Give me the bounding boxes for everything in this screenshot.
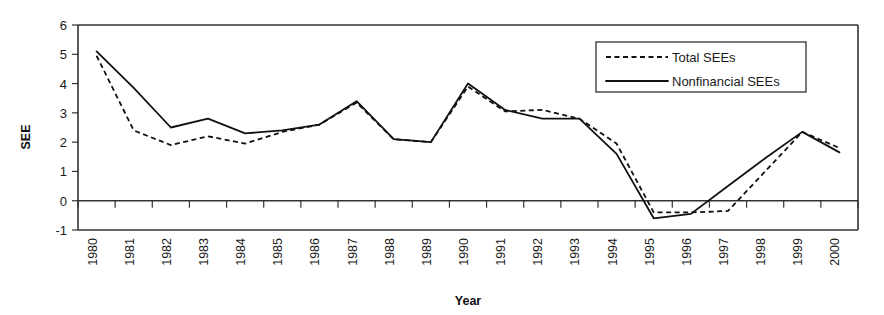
- x-tick-label: 1999: [791, 238, 805, 266]
- x-tick-label: 1990: [457, 238, 471, 266]
- x-tick-label: 1987: [346, 238, 360, 266]
- y-tick-label: 5: [60, 47, 67, 62]
- x-tick-label: 1988: [383, 238, 397, 266]
- x-axis-ticks: [78, 201, 858, 208]
- legend-label: Nonfinancial SEEs: [672, 74, 780, 89]
- x-tick-label: 1981: [123, 238, 137, 266]
- x-tick-label: 1993: [568, 238, 582, 266]
- see-line-chart: -10123456 198019811982198319841985198619…: [0, 0, 884, 315]
- x-tick-label: 1984: [234, 238, 248, 266]
- x-tick-label: 1985: [271, 238, 285, 266]
- chart-legend: Total SEEsNonfinancial SEEs: [596, 42, 806, 92]
- x-tick-label: 1986: [308, 238, 322, 266]
- x-tick-label: 2000: [828, 238, 842, 266]
- y-tick-label: 6: [60, 18, 67, 33]
- x-tick-label: 1989: [420, 238, 434, 266]
- x-tick-label: 1994: [606, 238, 620, 266]
- y-tick-label: 2: [60, 135, 67, 150]
- x-axis-title: Year: [455, 294, 482, 308]
- chart-page: -10123456 198019811982198319841985198619…: [0, 0, 884, 315]
- x-tick-label: 1982: [160, 238, 174, 266]
- x-tick-label: 1995: [643, 238, 657, 266]
- y-axis-tick-labels: -10123456: [55, 18, 67, 238]
- y-axis-ticks: [72, 25, 78, 230]
- x-tick-label: 1998: [754, 238, 768, 266]
- x-tick-label: 1997: [717, 238, 731, 266]
- x-axis-tick-labels: 1980198119821983198419851986198719881989…: [86, 238, 843, 266]
- y-tick-label: 1: [60, 164, 67, 179]
- y-tick-label: -1: [55, 223, 67, 238]
- x-tick-label: 1983: [197, 238, 211, 266]
- x-tick-label: 1996: [680, 238, 694, 266]
- y-tick-label: 3: [60, 106, 67, 121]
- y-tick-label: 4: [60, 77, 67, 92]
- y-axis-title: SEE: [19, 124, 33, 149]
- x-tick-label: 1991: [494, 238, 508, 266]
- x-tick-label: 1980: [86, 238, 100, 266]
- legend-label: Total SEEs: [672, 50, 736, 65]
- x-tick-label: 1992: [531, 238, 545, 266]
- y-tick-label: 0: [60, 194, 67, 209]
